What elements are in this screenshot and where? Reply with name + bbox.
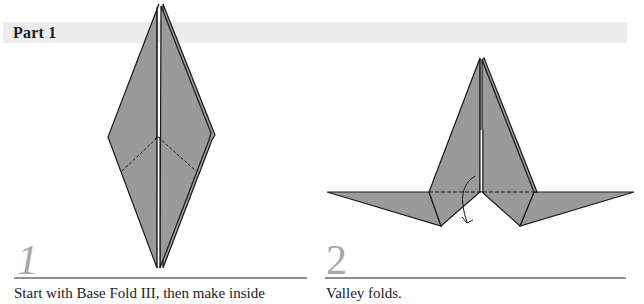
diamond-fold-shape — [108, 4, 215, 268]
step-1-divider — [14, 277, 307, 279]
step-2-number: 2 — [326, 240, 347, 280]
step-1-caption: Start with Base Fold III, then make insi… — [14, 284, 265, 302]
step-2-caption: Valley folds. — [326, 284, 402, 302]
step-1-number: 1 — [17, 240, 38, 280]
step-1-diagram — [0, 0, 644, 304]
step-2-divider — [325, 277, 626, 279]
